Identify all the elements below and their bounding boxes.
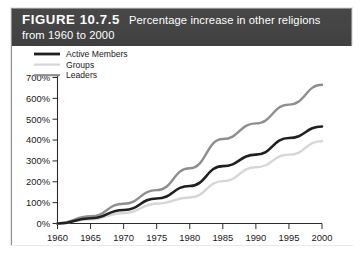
x-tick-label: 2000: [312, 232, 333, 243]
legend-label-active-members: Active Members: [66, 49, 128, 59]
y-tick-label: 400%: [26, 134, 50, 145]
line-chart-svg: 0%100%200%300%400%500%600%700% 196019651…: [12, 46, 353, 245]
x-tick-label: 1985: [212, 232, 233, 243]
legend-label-groups: Groups: [66, 60, 94, 70]
chart-legend: Active MembersGroupsLeaders: [34, 49, 128, 80]
y-tick-label: 700%: [26, 72, 50, 83]
x-axis-tick-labels: 196019651970197519801985199019952000: [47, 232, 332, 243]
figure-number-label: FIGURE 10.7.5: [22, 12, 120, 27]
chart-series-group: [58, 85, 323, 224]
series-line-leaders: [58, 85, 323, 224]
y-axis-ticks: [53, 78, 58, 224]
series-line-groups: [58, 141, 323, 223]
chart-plot-region: 0%100%200%300%400%500%600%700% 196019651…: [12, 46, 353, 245]
y-tick-label: 100%: [26, 197, 50, 208]
x-tick-label: 1970: [113, 232, 134, 243]
figure-title-band: FIGURE 10.7.5Percentage increase in othe…: [12, 9, 351, 46]
y-axis-tick-labels: 0%100%200%300%400%500%600%700%: [26, 72, 50, 229]
y-tick-label: 0%: [36, 218, 50, 229]
x-tick-label: 1995: [279, 232, 300, 243]
y-tick-label: 600%: [26, 93, 50, 104]
figure-title-text: FIGURE 10.7.5Percentage increase in othe…: [22, 13, 342, 42]
series-line-active-members: [58, 127, 323, 224]
x-tick-label: 1990: [245, 232, 266, 243]
x-tick-label: 1980: [179, 232, 200, 243]
x-tick-label: 1965: [80, 232, 101, 243]
x-tick-label: 1975: [146, 232, 167, 243]
y-tick-label: 200%: [26, 176, 50, 187]
x-axis-ticks: [58, 224, 323, 230]
x-tick-label: 1960: [47, 232, 68, 243]
figure-card: FIGURE 10.7.5Percentage increase in othe…: [11, 8, 352, 245]
y-tick-label: 300%: [26, 155, 50, 166]
legend-label-leaders: Leaders: [66, 70, 97, 80]
y-tick-label: 500%: [26, 114, 50, 125]
